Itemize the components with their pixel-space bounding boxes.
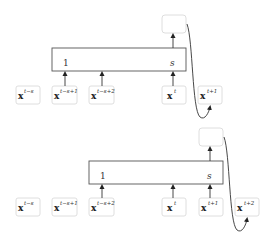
svg-text:t+1: t+1 bbox=[207, 88, 217, 94]
window-block bbox=[89, 161, 223, 184]
svg-text:t−s+1: t−s+1 bbox=[60, 200, 78, 206]
window-start-label: 1 bbox=[63, 58, 69, 68]
output-box bbox=[199, 128, 223, 146]
svg-text:t−s+2: t−s+2 bbox=[97, 200, 115, 206]
input-x-t-minus-s-plus-1: x t−s+1 bbox=[52, 198, 78, 216]
window-block bbox=[52, 48, 186, 71]
input-x-t-minus-s-plus-2: x t−s+2 bbox=[89, 86, 115, 104]
svg-text:t−s: t−s bbox=[24, 200, 34, 206]
feedback-curve bbox=[224, 137, 247, 231]
input-x-t-minus-s: x t−s bbox=[16, 198, 40, 216]
svg-text:x: x bbox=[167, 203, 173, 213]
svg-text:t+2: t+2 bbox=[244, 200, 255, 206]
svg-text:x: x bbox=[201, 203, 207, 213]
input-x-t-plus-1: x t+1 bbox=[199, 198, 223, 216]
svg-text:t−s+2: t−s+2 bbox=[97, 88, 115, 94]
svg-text:x: x bbox=[237, 203, 243, 213]
input-x-t-plus-1: x t+1 bbox=[198, 86, 222, 104]
svg-text:t−s+1: t−s+1 bbox=[60, 88, 78, 94]
svg-text:x: x bbox=[167, 91, 173, 101]
svg-text:x: x bbox=[200, 91, 206, 101]
input-x-t-minus-s: x t−s bbox=[16, 86, 40, 104]
window-start-label: 1 bbox=[100, 171, 106, 181]
input-x-t: x t bbox=[162, 198, 186, 216]
input-x-t-minus-s-plus-1: x t−s+1 bbox=[52, 86, 78, 104]
svg-text:t−s: t−s bbox=[24, 88, 34, 94]
input-x-t-minus-s-plus-2: x t−s+2 bbox=[89, 198, 115, 216]
svg-text:t+1: t+1 bbox=[208, 200, 218, 206]
diagram-bottom: 1 s x t−s x t−s+1 x t−s+2 x t x t+1 bbox=[16, 128, 259, 231]
window-end-label: s bbox=[170, 58, 175, 68]
window-end-label: s bbox=[207, 171, 212, 181]
output-box bbox=[162, 15, 186, 33]
sliding-window-diagram: 1 s x t−s x t−s+1 x t−s+2 x t x t+1 bbox=[0, 0, 276, 243]
input-x-t-plus-2: x t+2 bbox=[235, 198, 259, 216]
input-x-t: x t bbox=[162, 86, 186, 104]
diagram-top: 1 s x t−s x t−s+1 x t−s+2 x t x t+1 bbox=[16, 15, 222, 118]
